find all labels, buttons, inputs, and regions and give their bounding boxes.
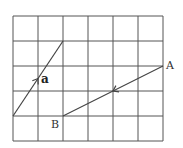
point-a-label: A (165, 59, 175, 72)
grid (13, 16, 163, 141)
vector-grid-diagram: a A B (0, 0, 183, 148)
vector-a-label: a (41, 72, 49, 86)
point-b-label: B (51, 118, 59, 131)
